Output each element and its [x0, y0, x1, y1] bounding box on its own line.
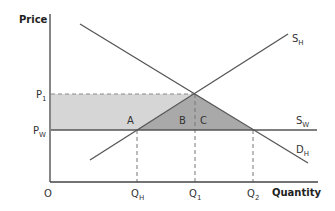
- q1-label: Q1: [189, 188, 201, 202]
- q2-label: Q2: [247, 188, 259, 202]
- supply-demand-diagram: Price Quantity O P1 PW QH Q1 Q2 SH DH SW…: [0, 0, 335, 211]
- region-a-label: A: [127, 115, 134, 126]
- qh-label: QH: [131, 188, 144, 202]
- region-c-label: C: [200, 115, 207, 126]
- p1-label: P1: [36, 89, 47, 103]
- sh-label: SH: [292, 33, 304, 47]
- pw-label: PW: [33, 125, 46, 139]
- region-b-label: B: [179, 115, 186, 126]
- origin-label: O: [44, 188, 52, 199]
- sw-label: SW: [296, 115, 309, 129]
- x-axis-label: Quantity: [272, 187, 321, 198]
- y-axis-label: Price: [19, 14, 48, 25]
- dh-label: DH: [296, 144, 309, 158]
